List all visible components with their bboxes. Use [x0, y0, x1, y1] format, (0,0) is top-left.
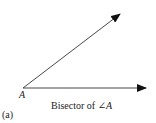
vertex-label: A [19, 89, 25, 100]
caption: Bisector of ∠A [51, 100, 112, 111]
upper-ray-arrow [23, 14, 120, 88]
caption-var: A [106, 100, 112, 111]
caption-text: Bisector of [51, 100, 98, 111]
angle-symbol-icon: ∠ [98, 100, 106, 111]
subfigure-label: (a) [2, 109, 13, 120]
